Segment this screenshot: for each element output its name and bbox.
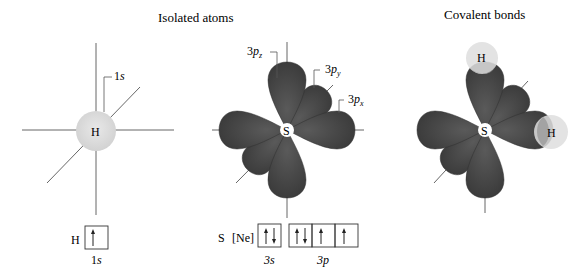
3px-label: 3px [348, 92, 364, 108]
h-1s-box-label: 1s [91, 253, 102, 267]
covalent-bonds-title: Covalent bonds [444, 7, 525, 22]
s-atom-label-bonded: S [481, 124, 488, 138]
spin-up-arrow-icon [319, 228, 323, 244]
spin-up-arrow-icon [295, 228, 299, 244]
h2s-molecule-group: H H S [417, 42, 568, 213]
3s-box [258, 224, 281, 247]
3p-box-3 [335, 224, 358, 247]
1s-leader-line [104, 77, 112, 112]
3p-box-2 [312, 224, 335, 247]
sulfur-atom-group: S 3pz 3py 3px [212, 42, 364, 218]
h-atom-label-top: H [477, 51, 486, 65]
3p-box-1 [289, 224, 312, 247]
isolated-atoms-title: Isolated atoms [158, 10, 233, 25]
hydrogen-config: H 1s [71, 226, 108, 267]
1s-orbital-label: 1s [114, 69, 125, 83]
3pz-label: 3pz [247, 44, 263, 60]
h-config-label: H [71, 233, 80, 247]
orbital-diagram: Isolated atoms Covalent bonds H 1s H 1s [0, 0, 579, 274]
sulfur-config: S [Ne] 3s 3p [218, 224, 358, 267]
spin-up-arrow-icon [91, 229, 95, 246]
h-1s-box [85, 226, 108, 249]
s-atom-label: S [283, 124, 290, 138]
s-config-core: [Ne] [232, 231, 254, 245]
spin-up-arrow-icon [264, 228, 268, 244]
h-atom-label-right: H [547, 126, 556, 140]
spin-down-arrow-icon [303, 228, 307, 244]
s-config-label: S [218, 231, 225, 245]
h-atom-label: H [91, 125, 100, 139]
hydrogen-atom-group: H 1s [22, 43, 174, 215]
3s-subshell-label: 3s [263, 253, 275, 267]
3py-label: 3py [325, 62, 341, 78]
spin-down-arrow-icon [272, 228, 276, 244]
spin-up-arrow-icon [342, 228, 346, 244]
3p-subshell-label: 3p [316, 253, 329, 267]
